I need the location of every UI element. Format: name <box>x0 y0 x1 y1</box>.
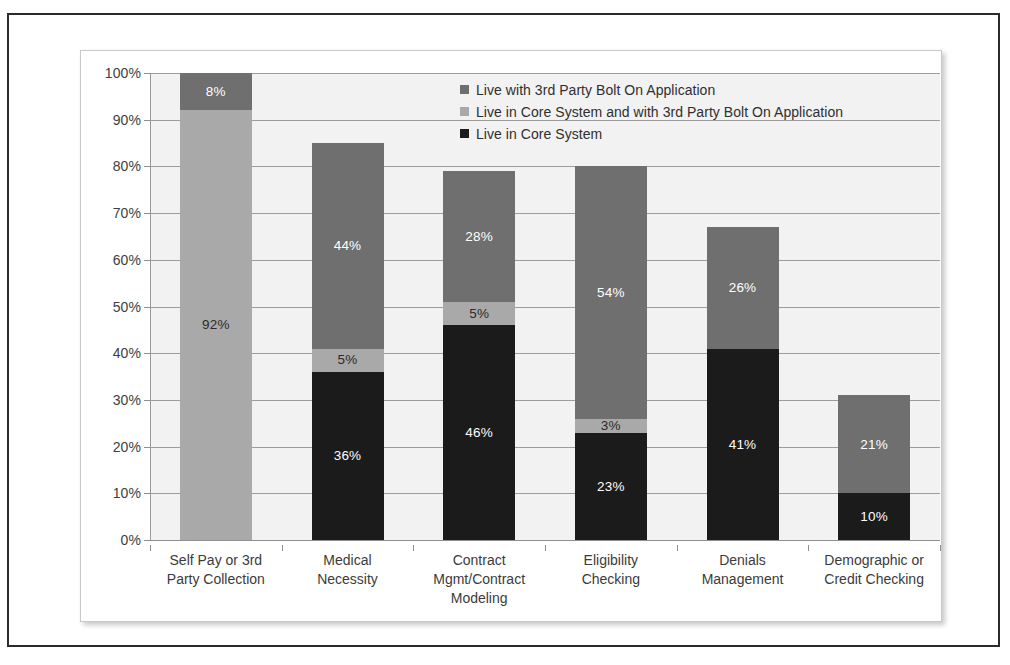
bar-segment[interactable]: 44% <box>312 143 384 348</box>
legend-swatch-icon <box>460 85 469 94</box>
gridline <box>150 353 940 354</box>
legend-swatch-icon <box>460 129 469 138</box>
chart-panel: 0%10%20%30%40%50%60%70%80%90%100% 92%8%3… <box>80 50 942 622</box>
x-axis-category-label: MedicalNecessity <box>282 551 414 589</box>
x-axis-category-label: ContractMgmt/ContractModeling <box>413 551 545 608</box>
x-axis: Self Pay or 3rdParty CollectionMedicalNe… <box>150 545 940 621</box>
bar-segment[interactable]: 5% <box>312 349 384 372</box>
x-axis-label-line: Denials <box>677 551 809 570</box>
gridline <box>150 73 940 74</box>
x-axis-label-line: Contract <box>413 551 545 570</box>
y-axis-tick <box>144 307 150 308</box>
gridline <box>150 400 940 401</box>
y-axis-tick <box>144 260 150 261</box>
legend-item[interactable]: Live with 3rd Party Bolt On Application <box>460 79 935 100</box>
y-axis-tick <box>144 213 150 214</box>
y-axis-tick-label: 60% <box>87 252 141 268</box>
x-axis-label-line: Party Collection <box>150 570 282 589</box>
x-axis-tick <box>940 545 941 551</box>
y-axis: 0%10%20%30%40%50%60%70%80%90%100% <box>81 73 141 541</box>
bar-group[interactable]: 41%26% <box>707 227 779 540</box>
y-axis-tick <box>144 353 150 354</box>
x-axis-category-label: EligibilityChecking <box>545 551 677 589</box>
bar-segment[interactable]: 21% <box>838 395 910 493</box>
x-axis-label-line: Eligibility <box>545 551 677 570</box>
bar-value-label: 23% <box>597 480 625 494</box>
bar-value-label: 54% <box>597 286 625 300</box>
bar-value-label: 46% <box>465 426 493 440</box>
bar-value-label: 36% <box>334 449 362 463</box>
gridline <box>150 447 940 448</box>
x-axis-label-line: Management <box>677 570 809 589</box>
bar-value-label: 44% <box>334 239 362 253</box>
x-axis-label-line: Checking <box>545 570 677 589</box>
x-axis-label-line: Necessity <box>282 570 414 589</box>
bar-value-label: 5% <box>469 307 489 321</box>
bar-segment[interactable]: 8% <box>180 73 252 110</box>
bar-segment[interactable]: 3% <box>575 419 647 433</box>
bar-segment[interactable]: 36% <box>312 372 384 540</box>
bar-value-label: 21% <box>860 438 888 452</box>
x-axis-category-label: Demographic orCredit Checking <box>808 551 940 589</box>
y-axis-tick <box>144 447 150 448</box>
bar-segment[interactable]: 10% <box>838 493 910 540</box>
bar-value-label: 5% <box>338 353 358 367</box>
legend-item-label: Live in Core System <box>476 126 602 142</box>
gridline <box>150 213 940 214</box>
bar-segment[interactable]: 92% <box>180 110 252 540</box>
x-axis-category-label: DenialsManagement <box>677 551 809 589</box>
chart-legend: Live with 3rd Party Bolt On ApplicationL… <box>460 79 935 145</box>
bar-value-label: 92% <box>202 318 230 332</box>
gridline <box>150 307 940 308</box>
bar-group[interactable]: 36%5%44% <box>312 143 384 540</box>
x-axis-label-line: Mgmt/Contract <box>413 570 545 589</box>
x-axis-category-label: Self Pay or 3rdParty Collection <box>150 551 282 589</box>
x-axis-label-line: Self Pay or 3rd <box>150 551 282 570</box>
x-axis-label-line: Modeling <box>413 589 545 608</box>
bar-segment[interactable]: 28% <box>443 171 515 302</box>
y-axis-tick <box>144 166 150 167</box>
y-axis-tick-label: 30% <box>87 392 141 408</box>
legend-item[interactable]: Live in Core System and with 3rd Party B… <box>460 101 935 122</box>
legend-item-label: Live in Core System and with 3rd Party B… <box>476 104 843 120</box>
gridline <box>150 493 940 494</box>
bar-value-label: 28% <box>465 230 493 244</box>
page-border-frame: 0%10%20%30%40%50%60%70%80%90%100% 92%8%3… <box>7 13 1000 647</box>
bar-group[interactable]: 23%3%54% <box>575 166 647 540</box>
bar-value-label: 8% <box>206 85 226 99</box>
y-axis-tick-label: 50% <box>87 299 141 315</box>
bar-segment[interactable]: 41% <box>707 349 779 540</box>
bar-group[interactable]: 46%5%28% <box>443 171 515 540</box>
y-axis-tick-label: 10% <box>87 485 141 501</box>
y-axis-tick-label: 90% <box>87 112 141 128</box>
x-axis-label-line: Credit Checking <box>808 570 940 589</box>
bar-segment[interactable]: 5% <box>443 302 515 325</box>
bar-group[interactable]: 10%21% <box>838 395 910 540</box>
y-axis-line <box>150 73 151 541</box>
y-axis-tick <box>144 540 150 541</box>
gridline <box>150 166 940 167</box>
bar-segment[interactable]: 46% <box>443 325 515 540</box>
bar-value-label: 10% <box>860 510 888 524</box>
x-axis-label-line: Medical <box>282 551 414 570</box>
bar-value-label: 41% <box>729 438 757 452</box>
legend-item[interactable]: Live in Core System <box>460 123 935 144</box>
legend-item-label: Live with 3rd Party Bolt On Application <box>476 82 715 98</box>
y-axis-tick-label: 40% <box>87 345 141 361</box>
y-axis-tick <box>144 400 150 401</box>
y-axis-tick-label: 20% <box>87 439 141 455</box>
bar-value-label: 3% <box>601 419 621 433</box>
bar-group[interactable]: 92%8% <box>180 73 252 540</box>
gridline <box>150 260 940 261</box>
y-axis-tick-label: 80% <box>87 158 141 174</box>
y-axis-tick <box>144 493 150 494</box>
bar-segment[interactable]: 26% <box>707 227 779 348</box>
x-axis-label-line: Demographic or <box>808 551 940 570</box>
y-axis-tick-label: 100% <box>87 65 141 81</box>
bar-segment[interactable]: 54% <box>575 166 647 418</box>
y-axis-tick <box>144 120 150 121</box>
y-axis-tick-label: 70% <box>87 205 141 221</box>
legend-swatch-icon <box>460 107 469 116</box>
bar-segment[interactable]: 23% <box>575 433 647 540</box>
y-axis-tick <box>144 73 150 74</box>
